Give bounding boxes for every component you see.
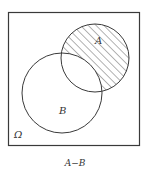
set-b-label: B [58, 105, 66, 116]
universe-label: Ω [13, 129, 22, 140]
venn-diagram: A B Ω A−B [0, 0, 149, 171]
caption: A−B [64, 158, 86, 168]
set-a-label: A [94, 35, 102, 46]
shaded-region-a-minus-b [55, 20, 135, 100]
